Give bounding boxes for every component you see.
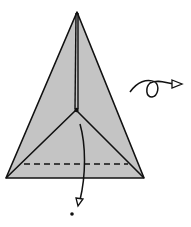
turn-over-arrow-head [172, 80, 182, 88]
origami-diagram [0, 0, 191, 227]
center-crease-left [75, 13, 76, 109]
turn-over-arrow [130, 80, 174, 97]
target-dot [70, 212, 74, 216]
fold-arrow-head [76, 198, 83, 206]
vertex-dot [74, 108, 78, 112]
